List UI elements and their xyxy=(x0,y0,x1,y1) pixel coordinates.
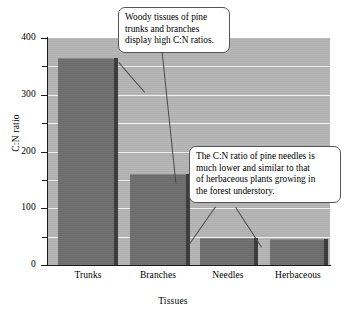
bar-needles-face xyxy=(200,238,258,265)
y-tick-100 xyxy=(41,208,47,209)
bar-herbaceous[interactable] xyxy=(270,239,328,265)
bar-herbaceous-face xyxy=(270,239,328,265)
bar-branches-face xyxy=(130,174,190,265)
y-tick-50 xyxy=(42,237,47,238)
y-axis-title: C:N ratio xyxy=(11,93,21,173)
y-tick-200 xyxy=(41,152,47,153)
bar-branches-top-edge xyxy=(130,174,190,175)
callout-woody-line-1: Woody tissues of pine xyxy=(125,12,223,24)
chart-figure: 400 300 200 100 0 C:N ratio Tissues Trun… xyxy=(0,0,346,321)
bar-branches[interactable] xyxy=(130,174,190,265)
bar-needles-top-edge xyxy=(200,238,258,239)
y-tick-0 xyxy=(41,265,47,266)
y-tick-label-0: 0 xyxy=(6,259,36,269)
callout-needles-line-2: much lower and similar to that xyxy=(196,163,334,175)
x-tick-label-trunks: Trunks xyxy=(48,270,128,280)
callout-woody-line-2: trunks and branches xyxy=(125,24,223,36)
x-tick-label-branches: Branches xyxy=(118,270,198,280)
callout-needles-line-3: of herbaceous plants growing in xyxy=(196,174,334,186)
x-tick-label-herbaceous: Herbaceous xyxy=(256,270,340,280)
bar-trunks-top-edge xyxy=(58,58,118,59)
bar-herbaceous-side-edge xyxy=(324,239,328,265)
bar-trunks-side-edge xyxy=(114,58,118,265)
y-tick-400 xyxy=(41,38,47,39)
y-tick-label-400: 400 xyxy=(6,32,36,42)
bar-trunks[interactable] xyxy=(58,58,118,265)
bar-trunks-face xyxy=(58,58,118,265)
callout-woody-line-3: display high C:N ratios. xyxy=(125,35,223,47)
x-axis-line xyxy=(47,265,331,266)
callout-needles-line-1: The C:N ratio of pine needles is xyxy=(196,151,334,163)
y-tick-300 xyxy=(41,95,47,96)
bar-herbaceous-top-edge xyxy=(270,239,328,240)
y-tick-250 xyxy=(42,123,47,124)
y-tick-350 xyxy=(42,66,47,67)
callout-woody-tissues[interactable]: Woody tissues of pine trunks and branche… xyxy=(118,7,230,53)
y-tick-150 xyxy=(42,180,47,181)
bar-needles[interactable] xyxy=(200,238,258,265)
callout-needles-ratio[interactable]: The C:N ratio of pine needles is much lo… xyxy=(189,146,341,203)
y-tick-label-100: 100 xyxy=(6,202,36,212)
y-axis-line xyxy=(47,37,48,266)
callout-needles-line-4: the forest understory. xyxy=(196,186,334,198)
x-axis-title: Tissues xyxy=(0,296,346,306)
